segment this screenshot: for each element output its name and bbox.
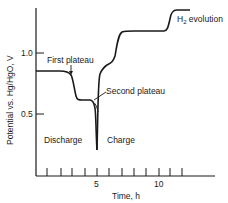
discharge-label: Discharge bbox=[44, 135, 83, 145]
charge-curve bbox=[97, 10, 190, 150]
second-plateau-arrow bbox=[94, 92, 106, 100]
h2-evolution-label: H2 evolution bbox=[177, 14, 223, 25]
x-ticks bbox=[47, 168, 182, 176]
y-tick-label-1.0: 1.0 bbox=[21, 48, 33, 58]
y-axis-label: Potential vs. Hg/HgO, V bbox=[5, 55, 15, 145]
y-tick-label-0.5: 0.5 bbox=[21, 109, 33, 119]
x-axis-label: Time, h bbox=[112, 191, 140, 201]
charge-label: Charge bbox=[107, 135, 135, 145]
x-tick-label-10: 10 bbox=[154, 179, 164, 189]
chart: 1.0 0.5 5 10 Time, h Potential vs. Hg/Hg… bbox=[0, 0, 228, 203]
first-plateau-label: First plateau bbox=[47, 55, 94, 65]
x-tick-label-5: 5 bbox=[94, 179, 99, 189]
second-plateau-label: Second plateau bbox=[106, 86, 165, 96]
